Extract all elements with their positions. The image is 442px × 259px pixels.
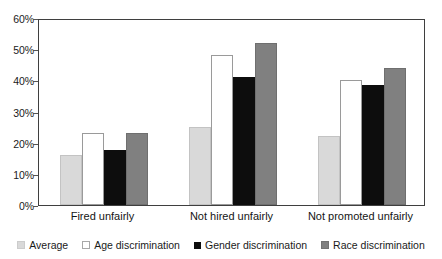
legend-label: Race discrimination	[333, 239, 425, 251]
y-tick-mark	[33, 206, 38, 207]
x-axis-category-labels: Fired unfairlyNot hired unfairlyNot prom…	[38, 210, 425, 228]
bar-age-2	[340, 80, 362, 205]
x-category-label: Not promoted unfairly	[296, 210, 425, 223]
legend-item-average[interactable]: Average	[17, 239, 68, 251]
y-tick-label: 30%	[0, 108, 34, 118]
legend-swatch-gender-icon	[194, 242, 201, 249]
y-tick-label: 10%	[0, 170, 34, 180]
legend-item-gender[interactable]: Gender discrimination	[194, 239, 307, 251]
legend-label: Gender discrimination	[205, 239, 307, 251]
legend-swatch-race-icon	[321, 241, 329, 249]
x-category-label: Not hired unfairly	[167, 210, 296, 223]
bar-age-1	[211, 55, 233, 205]
legend-item-age[interactable]: Age discrimination	[82, 239, 180, 251]
plot-area	[38, 19, 425, 206]
bar-race-2	[384, 68, 406, 205]
y-tick-label: 60%	[0, 14, 34, 24]
chart-legend: AverageAge discriminationGender discrimi…	[0, 236, 442, 254]
y-tick-label: 40%	[0, 76, 34, 86]
y-tick-label: 0%	[0, 201, 34, 211]
y-tick-label: 20%	[0, 139, 34, 149]
bar-gender-0	[104, 150, 126, 205]
legend-label: Average	[29, 239, 68, 251]
legend-swatch-age-icon	[82, 241, 90, 249]
bar-age-0	[82, 133, 104, 205]
bar-average-2	[318, 136, 340, 205]
bar-race-0	[126, 133, 148, 205]
bar-average-1	[189, 127, 211, 205]
bar-gender-1	[233, 77, 255, 205]
y-tick-label: 50%	[0, 45, 34, 55]
legend-label: Age discrimination	[94, 239, 180, 251]
bar-average-0	[60, 155, 82, 205]
bars-layer	[39, 20, 424, 205]
bar-chart: 0%10%20%30%40%50%60% Fired unfairlyNot h…	[0, 0, 442, 259]
y-axis: 0%10%20%30%40%50%60%	[0, 0, 34, 259]
bar-gender-2	[362, 85, 384, 205]
legend-item-race[interactable]: Race discrimination	[321, 239, 425, 251]
x-category-label: Fired unfairly	[38, 210, 167, 223]
legend-swatch-average-icon	[17, 241, 25, 249]
bar-race-1	[255, 43, 277, 205]
